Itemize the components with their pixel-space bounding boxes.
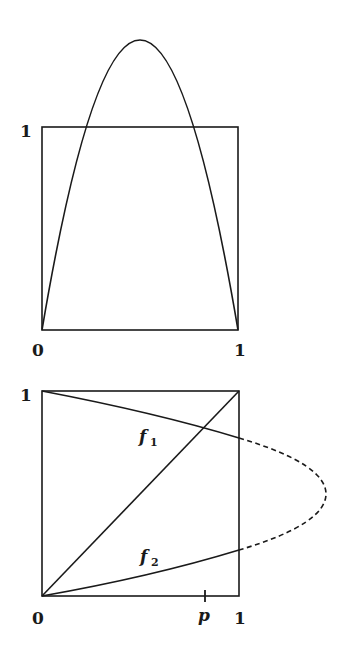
svg-text:1: 1 <box>150 436 158 449</box>
p-label: p <box>198 605 210 625</box>
svg-text:f: f <box>139 546 150 566</box>
figure-canvas: 1 0 1 1 0 1 p f 1 f 2 <box>0 0 344 652</box>
dashed-continuation-curve <box>239 438 326 550</box>
f1-label: f 1 <box>138 426 158 449</box>
bottom-panel: 1 0 1 p f 1 f 2 <box>20 385 326 628</box>
parabola-curve <box>42 40 238 330</box>
bottom-x-zero-label: 0 <box>32 608 44 628</box>
bottom-x-one-label: 1 <box>234 608 246 628</box>
svg-text:f: f <box>138 426 149 446</box>
top-x-one-label: 1 <box>234 340 246 360</box>
top-x-zero-label: 0 <box>32 340 44 360</box>
f2-label: f 2 <box>139 546 159 569</box>
top-y-one-label: 1 <box>20 121 32 141</box>
top-panel: 1 0 1 <box>20 40 246 360</box>
svg-text:2: 2 <box>151 556 159 569</box>
unit-square-top <box>42 127 238 330</box>
bottom-y-one-label: 1 <box>20 385 32 405</box>
